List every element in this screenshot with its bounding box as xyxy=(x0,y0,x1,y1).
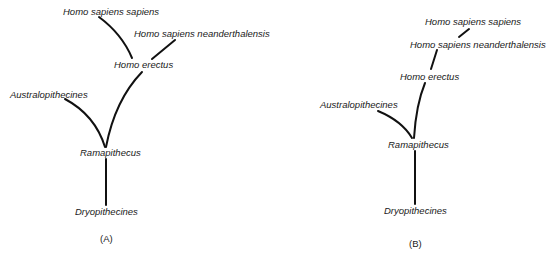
edge-b-ramapithecus-to-erectus xyxy=(414,83,425,138)
node-b-australopithecines: Australopithecines xyxy=(320,100,398,110)
edge-a-erectus-to-neanderthalensis xyxy=(152,40,175,59)
edge-a-ramapithecus-to-australopithecines xyxy=(65,99,105,147)
edge-b-ramapithecus-to-australopithecines xyxy=(378,111,412,138)
node-a-homo-erectus: Homo erectus xyxy=(114,60,173,70)
panel-b-caption: (B) xyxy=(409,239,422,249)
edge-b-erectus-to-neanderthalensis xyxy=(431,50,437,69)
edge-a-erectus-to-sapiens-sapiens xyxy=(99,17,132,58)
node-a-homo-sapiens-sapiens: Homo sapiens sapiens xyxy=(63,7,159,17)
node-a-homo-sapiens-neanderthalensis: Homo sapiens neanderthalensis xyxy=(134,29,270,39)
node-a-dryopithecines: Dryopithecines xyxy=(75,207,138,217)
node-b-homo-erectus: Homo erectus xyxy=(400,72,459,82)
node-b-ramapithecus: Ramapithecus xyxy=(388,140,449,150)
panel-a-caption: (A) xyxy=(100,234,113,244)
node-b-homo-sapiens-neanderthalensis: Homo sapiens neanderthalensis xyxy=(410,40,546,50)
edge-a-ramapithecus-to-erectus xyxy=(106,72,142,147)
node-a-ramapithecus: Ramapithecus xyxy=(80,148,141,158)
node-b-homo-sapiens-sapiens: Homo sapiens sapiens xyxy=(425,17,521,27)
node-a-australopithecines: Australopithecines xyxy=(10,90,88,100)
edge-b-neanderthalensis-to-sapiens-sapiens xyxy=(459,29,469,37)
node-b-dryopithecines: Dryopithecines xyxy=(384,206,447,216)
